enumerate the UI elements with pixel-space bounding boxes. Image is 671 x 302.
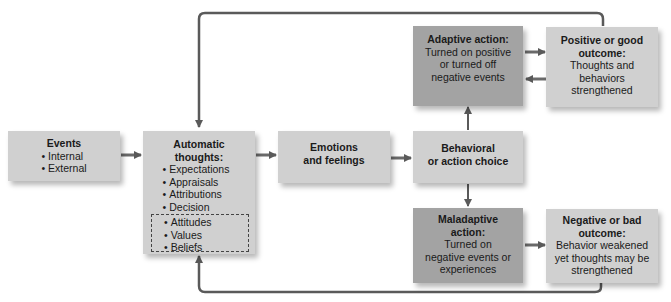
thoughts-item: Decision: [163, 201, 230, 214]
maladaptive-line-2: negative events or: [413, 251, 523, 264]
thoughts-dashed-item: Beliefs: [164, 241, 212, 254]
emotions-line-2: and feelings: [278, 154, 390, 167]
events-item: External: [41, 162, 86, 175]
positive-line-3: strengthened: [546, 84, 658, 97]
adaptive-line-3: negative events: [413, 71, 523, 84]
maladaptive-title-1: Maladaptive: [413, 213, 523, 226]
node-maladaptive-action: Maladaptive action: Turned on negative e…: [413, 208, 523, 283]
positive-title-2: outcome:: [546, 47, 658, 60]
thoughts-dashed-item: Values: [164, 229, 212, 242]
thoughts-list: Expectations Appraisals Attributions Dec…: [163, 163, 230, 213]
node-automatic-thoughts: Automatic thoughts: Expectations Apprais…: [143, 131, 255, 254]
node-emotions: Emotions and feelings: [278, 131, 390, 183]
node-negative-outcome: Negative or bad outcome: Behavior weaken…: [546, 209, 658, 283]
node-positive-outcome: Positive or good outcome: Thoughts and b…: [546, 27, 658, 107]
positive-line-1: Thoughts and: [546, 59, 658, 72]
node-events: Events Internal External: [8, 131, 120, 181]
emotions-line-1: Emotions: [278, 141, 390, 154]
thoughts-dashed-item: Attitudes: [164, 216, 212, 229]
behavioral-line-1: Behavioral: [413, 142, 523, 155]
events-item: Internal: [41, 150, 86, 163]
thoughts-title-2: thoughts:: [143, 151, 255, 164]
positive-line-2: behaviors: [546, 72, 658, 85]
negative-title-2: outcome:: [546, 227, 658, 240]
maladaptive-line-1: Turned on: [413, 238, 523, 251]
thoughts-title-1: Automatic: [143, 138, 255, 151]
maladaptive-line-3: experiences: [413, 263, 523, 276]
negative-line-2: yet thoughts may be: [546, 252, 658, 265]
node-behavioral-choice: Behavioral or action choice: [413, 131, 523, 183]
behavioral-line-2: or action choice: [413, 155, 523, 168]
thoughts-item: Expectations: [163, 163, 230, 176]
adaptive-title: Adaptive action:: [413, 33, 523, 46]
negative-title-1: Negative or bad: [546, 214, 658, 227]
events-list: Internal External: [41, 150, 86, 175]
events-title: Events: [8, 137, 120, 150]
node-adaptive-action: Adaptive action: Turned on positive or t…: [413, 26, 523, 106]
negative-line-1: Behavior weakened: [546, 239, 658, 252]
positive-title-1: Positive or good: [546, 34, 658, 47]
negative-line-3: strengthened: [546, 264, 658, 277]
thoughts-dashed-list: Attitudes Values Beliefs: [164, 216, 212, 254]
thoughts-item: Attributions: [163, 188, 230, 201]
maladaptive-title-2: action:: [413, 226, 523, 239]
dashed-group-beliefs: Attitudes Values Beliefs: [151, 214, 249, 252]
feedback-loop-positive: [199, 13, 603, 127]
feedback-loop-negative: [199, 256, 601, 292]
adaptive-line-2: or turned off: [413, 58, 523, 71]
thoughts-item: Appraisals: [163, 176, 230, 189]
adaptive-line-1: Turned on positive: [413, 46, 523, 59]
